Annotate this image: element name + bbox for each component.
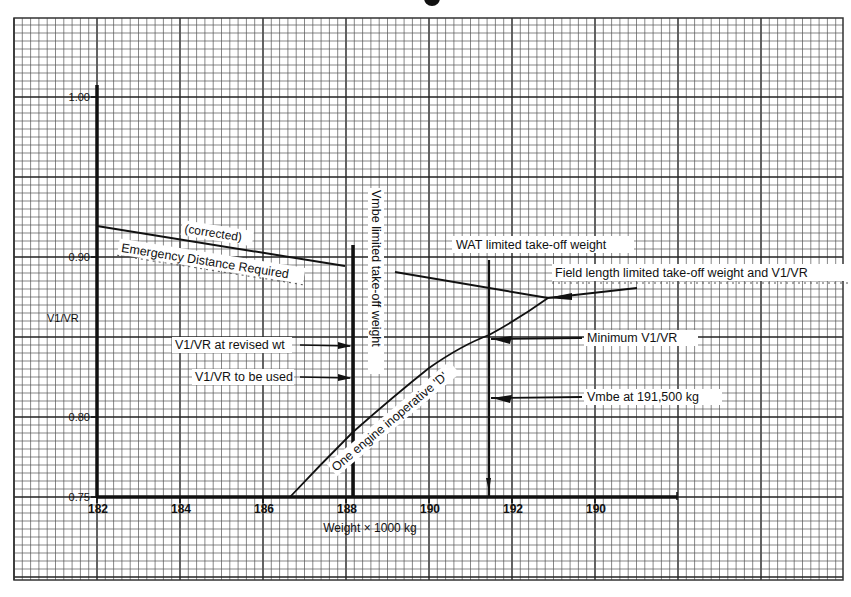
x-tick-188: 188: [337, 502, 357, 516]
v1vr-revised-label: V1/VR at revised wt: [175, 338, 285, 352]
wat-limited-label: WAT limited take-off weight: [456, 238, 607, 252]
y-tick-0.75: 0.75: [69, 491, 90, 503]
x-tick-192: 192: [503, 502, 523, 516]
x-tick-190: 190: [420, 502, 440, 516]
field-length-label: Field length limited take-off weight and…: [555, 266, 808, 280]
y-tick-0.90: 0.90: [69, 251, 90, 263]
x-tick-194: 190: [586, 502, 606, 516]
y-tick-1.00: 1.00: [69, 91, 90, 103]
x-tick-182: 182: [88, 502, 108, 516]
x-tick-184: 184: [171, 502, 191, 516]
x-axis-title: Weight × 1000 kg: [323, 521, 417, 535]
chart-canvas: 1.00 0.90 0.80 0.75 182 184 186 188 190 …: [0, 0, 851, 597]
vmbe-191-label: Vmbe at 191,500 kg: [587, 390, 699, 404]
vmbe-limited-label-group: Vmbe limited take-off weight: [368, 188, 384, 374]
y-tick-0.80: 0.80: [69, 411, 90, 423]
vmbe-limited-label: Vmbe limited take-off weight: [369, 190, 383, 347]
x-tick-186: 186: [254, 502, 274, 516]
v1vr-used-label: V1/VR to be used: [195, 370, 293, 384]
min-v1vr-label: Minimum V1/VR: [587, 331, 677, 345]
y-axis-title: V1/VR: [47, 312, 79, 324]
